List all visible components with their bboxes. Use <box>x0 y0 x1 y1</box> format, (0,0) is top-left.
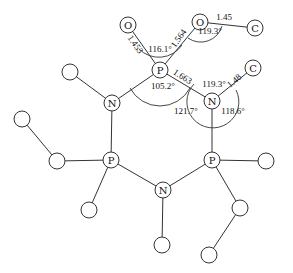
atom-label: N <box>159 185 168 196</box>
atom-circle <box>232 200 248 216</box>
atom-label: P <box>157 65 164 76</box>
atom-generic-x5 <box>154 237 170 253</box>
atoms: OOCPNCNPNP <box>14 14 274 263</box>
bond-angle-label: 118.6° <box>221 106 245 116</box>
atom-label: N <box>108 98 117 109</box>
atom-circle <box>258 153 274 169</box>
atom-p-p1: P <box>152 62 168 78</box>
atom-n-n1: N <box>204 93 220 109</box>
atom-label: O <box>124 20 132 31</box>
bond-n3-p3 <box>163 160 212 190</box>
atom-o-o1: O <box>120 17 136 33</box>
atom-n-n2: N <box>104 95 120 111</box>
atom-generic-x4 <box>81 202 97 218</box>
bond-n2-p2 <box>111 103 112 160</box>
atom-generic-x3 <box>14 111 30 127</box>
atom-generic-x1 <box>62 64 78 80</box>
atom-label: P <box>209 155 216 166</box>
atom-p-p3: P <box>204 152 220 168</box>
atom-label: C <box>249 63 257 74</box>
atom-circle <box>154 237 170 253</box>
bond-length-label: 1.45 <box>216 12 232 22</box>
atom-circle <box>49 153 65 169</box>
atom-label: P <box>108 155 115 166</box>
bonds <box>22 22 266 255</box>
atom-label: N <box>208 96 217 107</box>
bond-angle-label: 119.3° <box>198 26 222 36</box>
atom-circle <box>201 247 217 263</box>
atom-c-c1: C <box>247 20 263 36</box>
atom-generic-x8 <box>201 247 217 263</box>
atom-generic-x7 <box>232 200 248 216</box>
atom-circle <box>81 202 97 218</box>
atom-circle <box>62 64 78 80</box>
atom-generic-x2 <box>49 153 65 169</box>
bond-p2-n3 <box>111 160 163 190</box>
measurement-labels: 1.4531.5641.451.6631.48116.1°119.3°105.2… <box>126 12 246 116</box>
atom-generic-x6 <box>258 153 274 169</box>
atom-circle <box>14 111 30 127</box>
bond-angle-label: 116.1° <box>148 44 172 54</box>
bond-angle-label: 119.3° <box>202 79 226 89</box>
bond-angle-label: 105.2° <box>151 81 175 91</box>
atom-label: C <box>251 23 259 34</box>
bond-angle-label: 121.7° <box>174 106 198 116</box>
atom-n-n3: N <box>155 182 171 198</box>
atom-p-p2: P <box>103 152 119 168</box>
bond-length-label: 1.48 <box>225 71 244 89</box>
molecule-diagram: OOCPNCNPNP 1.4531.5641.451.6631.48116.1°… <box>0 0 293 273</box>
atom-c-c2: C <box>245 60 261 76</box>
